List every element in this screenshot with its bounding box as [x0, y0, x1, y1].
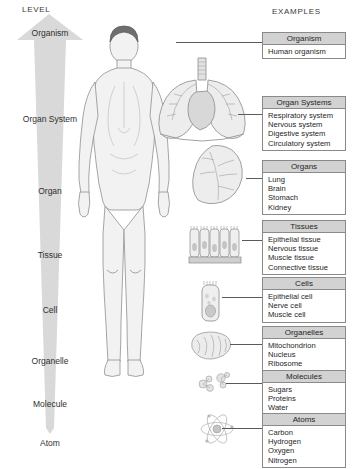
level-label-molecule: Molecule: [0, 399, 100, 409]
example-item: Nucleus: [268, 350, 345, 359]
example-item: Nerve cell: [268, 301, 345, 310]
examples-column-header: EXAMPLES: [272, 7, 321, 16]
levels-of-organization-diagram: LEVEL EXAMPLES OrganismOrgan SystemOrgan…: [0, 0, 359, 469]
example-box-title-cells: Cells: [263, 278, 345, 290]
leader-line-atoms: [222, 428, 262, 429]
example-item: Muscle tissue: [268, 253, 345, 262]
example-box-tissues: TissuesEpithelial tissueNervous tissueMu…: [262, 220, 346, 275]
example-item: Respiratory system: [268, 111, 345, 120]
example-item: Ribosome: [268, 359, 345, 368]
atom-illustration: [198, 410, 236, 448]
example-item: Kidney: [268, 203, 345, 212]
example-box-items-cells: Epithelial cellNerve cellMuscle cell: [263, 290, 345, 322]
example-item: Hydrogen: [268, 437, 345, 446]
leader-line-organs: [246, 178, 262, 179]
example-item: Proteins: [268, 394, 345, 403]
leader-line-tissues: [242, 240, 262, 241]
example-item: Epithelial tissue: [268, 235, 345, 244]
example-box-atoms: AtomsCarbonHydrogenOxygenNitrogen: [262, 413, 346, 468]
example-item: Stomach: [268, 193, 345, 202]
example-item: Nitrogen: [268, 456, 345, 465]
leader-line-cells: [222, 297, 262, 298]
example-item: Connective tissue: [268, 263, 345, 272]
example-item: Brain: [268, 184, 345, 193]
example-item: Human organism: [268, 47, 345, 56]
example-box-cells: CellsEpithelial cellNerve cellMuscle cel…: [262, 277, 346, 323]
example-box-organs: OrgansLungBrainStomachKidney: [262, 160, 346, 215]
example-box-title-tissues: Tissues: [263, 221, 345, 233]
example-item: Epithelial cell: [268, 292, 345, 301]
example-box-items-tissues: Epithelial tissueNervous tissueMuscle ti…: [263, 233, 345, 274]
example-box-items-atoms: CarbonHydrogenOxygenNitrogen: [263, 426, 345, 467]
example-item: Nervous system: [268, 120, 345, 129]
example-box-title-organs: Organs: [263, 161, 345, 173]
example-item: Nervous tissue: [268, 244, 345, 253]
example-box-items-organism: Human organism: [263, 45, 345, 58]
example-item: Lung: [268, 175, 345, 184]
leader-line-organelles: [230, 344, 262, 345]
leader-line-organ-systems: [238, 114, 262, 115]
example-item: Mitochondrion: [268, 341, 345, 350]
mitochondrion-illustration: [186, 328, 234, 362]
example-box-organelles: OrganellesMitochondrionNucleusRibosome: [262, 326, 346, 372]
example-item: Sugars: [268, 385, 345, 394]
epithelial-tissue-illustration: [188, 225, 244, 267]
level-label-atom: Atom: [0, 438, 100, 448]
example-box-title-organelles: Organelles: [263, 327, 345, 339]
example-item: Water: [268, 403, 345, 412]
lung-organ-illustration: [190, 144, 248, 206]
example-box-items-organs: LungBrainStomachKidney: [263, 173, 345, 214]
example-box-title-organism: Organism: [263, 33, 345, 45]
example-box-title-molecules: Molecules: [263, 371, 345, 383]
example-box-molecules: MoleculesSugarsProteinsWater: [262, 370, 346, 416]
level-column-header: LEVEL: [22, 5, 50, 14]
example-box-organism: OrganismHuman organism: [262, 32, 346, 59]
example-item: Oxygen: [268, 446, 345, 455]
example-item: Digestive system: [268, 129, 345, 138]
example-box-items-molecules: SugarsProteinsWater: [263, 383, 345, 415]
respiratory-system-illustration: [152, 58, 252, 144]
example-item: Carbon: [268, 428, 345, 437]
leader-line-organism: [176, 42, 262, 43]
example-box-items-organelles: MitochondrionNucleusRibosome: [263, 339, 345, 371]
example-item: Circulatory system: [268, 139, 345, 148]
example-item: Muscle cell: [268, 310, 345, 319]
example-box-title-atoms: Atoms: [263, 414, 345, 426]
example-box-organ-systems: Organ SystemsRespiratory systemNervous s…: [262, 96, 346, 151]
leader-line-molecules: [226, 383, 262, 384]
example-box-items-organ-systems: Respiratory systemNervous systemDigestiv…: [263, 109, 345, 150]
example-box-title-organ-systems: Organ Systems: [263, 97, 345, 109]
epithelial-cell-illustration: [198, 280, 224, 324]
